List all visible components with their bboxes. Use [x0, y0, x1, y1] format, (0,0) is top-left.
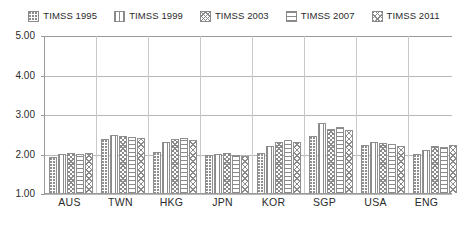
bar[interactable]	[119, 136, 127, 193]
legend-swatch-cross-icon	[372, 11, 383, 22]
y-axis-tick-label: 4.00	[0, 71, 35, 81]
bar[interactable]	[336, 127, 344, 193]
bar[interactable]	[413, 154, 421, 194]
legend-label: TIMSS 1999	[129, 11, 183, 21]
bar[interactable]	[449, 145, 457, 193]
bar-group-twn	[97, 36, 149, 193]
bar[interactable]	[241, 156, 249, 193]
bar-group-aus	[45, 36, 97, 193]
bar[interactable]	[379, 143, 387, 193]
legend-item[interactable]: TIMSS 2007	[286, 11, 355, 22]
bar[interactable]	[205, 155, 213, 193]
bar[interactable]	[76, 154, 84, 194]
grouped-bar-chart: TIMSS 1995TIMSS 1999TIMSS 2003TIMSS 2007…	[0, 0, 468, 227]
x-axis-label-hkg: HKG	[146, 196, 197, 212]
bar[interactable]	[397, 146, 405, 193]
bar[interactable]	[58, 154, 66, 194]
legend-label: TIMSS 2011	[387, 11, 440, 21]
bar-group-usa	[357, 36, 409, 193]
bar[interactable]	[318, 123, 326, 193]
plot-area	[44, 36, 452, 194]
legend-swatch-vertical-icon	[114, 11, 125, 22]
bar[interactable]	[388, 144, 396, 193]
bar[interactable]	[431, 146, 439, 193]
legend-item[interactable]: TIMSS 2003	[200, 11, 269, 22]
legend-item[interactable]: TIMSS 1995	[28, 11, 97, 22]
x-axis-label-eng: ENG	[401, 196, 452, 212]
legend-swatch-horizontal-icon	[286, 11, 297, 22]
legend-item[interactable]: TIMSS 1999	[114, 11, 183, 22]
y-axis-tick-mark	[41, 194, 45, 195]
bar[interactable]	[223, 153, 231, 193]
y-axis-tick-label: 5.00	[0, 31, 35, 41]
y-axis-tick-label: 2.00	[0, 150, 35, 160]
y-axis-labels: 5.004.003.002.001.00	[0, 36, 40, 194]
legend-swatch-dots-icon	[28, 11, 39, 22]
bar[interactable]	[284, 140, 292, 193]
gridline	[45, 194, 452, 195]
bar[interactable]	[110, 135, 118, 193]
bar[interactable]	[214, 154, 222, 194]
bar[interactable]	[293, 142, 301, 193]
y-axis-tick-label: 1.00	[0, 189, 35, 199]
bar[interactable]	[137, 138, 145, 193]
bar[interactable]	[309, 136, 317, 193]
bar[interactable]	[85, 153, 93, 193]
x-axis-label-twn: TWN	[95, 196, 146, 212]
x-axis-labels: AUSTWNHKGJPNKORSGPUSAENG	[44, 196, 452, 212]
bar[interactable]	[180, 138, 188, 193]
x-axis-label-jpn: JPN	[197, 196, 248, 212]
bar[interactable]	[153, 152, 161, 193]
bar[interactable]	[275, 142, 283, 193]
bar-groups	[45, 36, 452, 193]
x-axis-label-sgp: SGP	[299, 196, 350, 212]
bar[interactable]	[128, 137, 136, 193]
bar[interactable]	[370, 142, 378, 193]
y-axis-tick-label: 3.00	[0, 110, 35, 120]
chart-legend: TIMSS 1995TIMSS 1999TIMSS 2003TIMSS 2007…	[0, 8, 468, 24]
x-axis-label-usa: USA	[350, 196, 401, 212]
bar-group-hkg	[149, 36, 201, 193]
legend-label: TIMSS 2003	[215, 11, 269, 21]
x-axis-label-aus: AUS	[44, 196, 95, 212]
x-axis-label-kor: KOR	[248, 196, 299, 212]
legend-label: TIMSS 2007	[301, 11, 355, 21]
bar[interactable]	[171, 139, 179, 193]
bar[interactable]	[101, 139, 109, 194]
bar[interactable]	[440, 147, 448, 193]
legend-label: TIMSS 1995	[43, 11, 97, 21]
bar[interactable]	[189, 140, 197, 193]
legend-swatch-wave-icon	[200, 11, 211, 22]
bar[interactable]	[327, 129, 335, 193]
bar[interactable]	[266, 146, 274, 193]
bar[interactable]	[422, 150, 430, 193]
legend-item[interactable]: TIMSS 2011	[372, 11, 440, 22]
bar[interactable]	[162, 142, 170, 193]
bar-group-sgp	[305, 36, 357, 193]
bar[interactable]	[361, 145, 369, 193]
bar[interactable]	[67, 153, 75, 193]
bar[interactable]	[49, 157, 57, 193]
bar[interactable]	[257, 153, 265, 193]
bar[interactable]	[232, 155, 240, 193]
bar-group-kor	[253, 36, 305, 193]
bar-group-eng	[409, 36, 461, 193]
bar-group-jpn	[201, 36, 253, 193]
bar[interactable]	[345, 130, 353, 193]
